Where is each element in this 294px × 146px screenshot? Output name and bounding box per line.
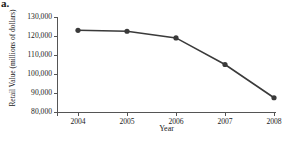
y-tick-label: 80,000 [31, 108, 52, 116]
data-point [173, 35, 178, 40]
data-point [124, 29, 129, 34]
x-tick-mark [57, 113, 58, 116]
x-axis-line [57, 112, 276, 113]
x-tick-mark [274, 113, 275, 116]
y-tick-label: 90,000 [31, 89, 52, 97]
x-tick-mark [127, 113, 128, 116]
x-tick-mark [176, 113, 177, 116]
y-tick-label: 130,000 [27, 13, 52, 21]
y-tick-label: 110,000 [28, 51, 52, 59]
data-point [75, 28, 80, 33]
series-markers [75, 28, 276, 101]
y-axis-tick-labels: 130,000 120,000 110,000 100,000 90,000 8… [14, 0, 52, 146]
chart-figure: a. Retail Value (millions of dollars) 13… [0, 0, 294, 146]
y-tick-label: 120,000 [27, 32, 52, 40]
data-point [271, 95, 276, 100]
x-axis-title: Year [57, 124, 276, 133]
y-tick-label: 100,000 [27, 70, 52, 78]
x-tick-mark [225, 113, 226, 116]
data-point [222, 62, 227, 67]
data-series [57, 17, 276, 112]
plot-area: 2004 2005 2006 2007 2008 [57, 17, 276, 112]
panel-letter: a. [1, 0, 9, 9]
x-tick-mark [78, 113, 79, 116]
